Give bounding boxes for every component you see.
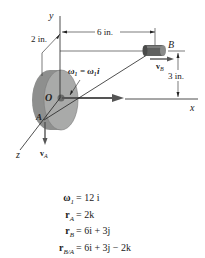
equation-omega: ω1= 12 i: [40, 192, 131, 209]
origin-label: O: [45, 92, 52, 103]
omega-label: ω₁ = ω₁i: [68, 66, 100, 76]
va-arrowhead-icon: [43, 138, 48, 145]
dim-2in-label: 2 in.: [31, 34, 47, 44]
x-axis-label: x: [189, 102, 195, 113]
point-b-label: B: [168, 39, 174, 50]
dim-6in-label: 6 in.: [97, 27, 113, 37]
equation-rb: rB= 6i + 3j: [40, 225, 131, 242]
point-a-label: A: [35, 112, 42, 122]
equation-ra: rA= 2k: [40, 209, 131, 226]
equation-block: ω1= 12 i rA= 2k rB= 6i + 3j rB/A= 6i + 3…: [40, 192, 131, 258]
z-axis-label: z: [15, 149, 20, 160]
y-axis-label: y: [48, 10, 54, 21]
vb-label: vB: [156, 62, 164, 72]
dim-3in-label: 3 in.: [168, 71, 184, 81]
va-label: vA: [40, 149, 48, 159]
omega-arrowhead-icon: [112, 94, 124, 102]
equation-rba: rB/A= 6i + 3j − 2k: [40, 242, 131, 258]
vb-arrowhead-icon: [167, 57, 174, 62]
